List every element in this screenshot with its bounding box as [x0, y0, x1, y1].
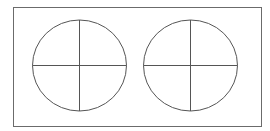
diagram-frame	[14, 8, 262, 127]
right-quartered-circle	[144, 20, 238, 111]
left-quartered-circle	[33, 20, 127, 111]
diagram-canvas	[0, 0, 270, 131]
